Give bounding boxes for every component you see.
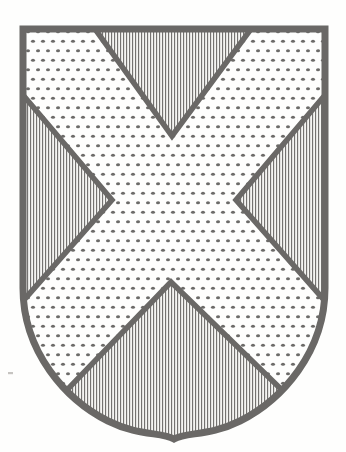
scan-speck	[8, 372, 13, 374]
heraldic-shield-figure	[0, 0, 346, 452]
shield-illustration	[0, 0, 346, 452]
shield-field-group	[0, 0, 346, 452]
